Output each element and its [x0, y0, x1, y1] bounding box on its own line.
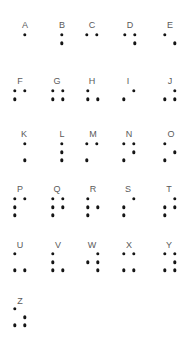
braille-dot-2-icon [13, 97, 16, 100]
braille-alphabet-chart: ABCDEFGHIJKLMNOPQRSTUVWXYZ [0, 0, 193, 339]
braille-dot-2-icon [13, 205, 16, 208]
letter-label: J [168, 77, 173, 86]
braille-dot-4-icon [133, 33, 136, 36]
braille-dot-4-icon [132, 252, 135, 255]
braille-dot-6-icon [23, 269, 26, 272]
braille-dot-3-icon [163, 214, 166, 217]
letter-label: B [59, 21, 65, 30]
braille-dot-5-icon [173, 205, 176, 208]
braille-dot-2-icon [60, 41, 63, 44]
braille-dot-2-icon [122, 97, 125, 100]
braille-dot-3-icon [13, 214, 16, 217]
letter-label: D [127, 21, 134, 30]
letter-label: C [89, 21, 96, 30]
braille-dot-5-icon [173, 150, 176, 153]
braille-dot-4-icon [132, 89, 135, 92]
braille-dot-3-icon [85, 159, 88, 162]
braille-dot-3-icon [122, 269, 125, 272]
braille-dot-4-icon [173, 89, 176, 92]
braille-dot-2-icon [163, 97, 166, 100]
braille-dot-1-icon [23, 33, 26, 36]
braille-dot-4-icon [61, 197, 64, 200]
braille-dot-5-icon [173, 97, 176, 100]
braille-dot-3-icon [51, 214, 54, 217]
braille-dot-5-icon [173, 41, 176, 44]
letter-label: E [167, 21, 173, 30]
letter-label: Q [53, 185, 60, 194]
braille-dot-5-icon [96, 97, 99, 100]
letter-label: X [126, 241, 132, 250]
braille-dot-2-icon [86, 205, 89, 208]
braille-dot-5-icon [132, 150, 135, 153]
braille-dot-3-icon [23, 159, 26, 162]
braille-dot-4-icon [96, 252, 99, 255]
letter-label: R [90, 185, 97, 194]
braille-dot-1-icon [60, 142, 63, 145]
braille-dot-1-icon [51, 89, 54, 92]
braille-dot-2-icon [60, 150, 63, 153]
braille-dot-5-icon [133, 41, 136, 44]
braille-dot-1-icon [13, 89, 16, 92]
braille-dot-1-icon [60, 33, 63, 36]
braille-dot-1-icon [85, 142, 88, 145]
letter-label: T [166, 185, 172, 194]
letter-label: Y [166, 241, 172, 250]
braille-dot-2-icon [86, 97, 89, 100]
braille-dot-5-icon [173, 260, 176, 263]
braille-dot-1-icon [86, 89, 89, 92]
braille-dot-2-icon [163, 205, 166, 208]
braille-dot-4-icon [173, 252, 176, 255]
letter-label: W [88, 241, 97, 250]
braille-dot-1-icon [51, 197, 54, 200]
braille-dot-1-icon [163, 142, 166, 145]
braille-dot-1-icon [13, 197, 16, 200]
letter-label: P [17, 185, 23, 194]
braille-dot-3-icon [163, 269, 166, 272]
braille-dot-3-icon [60, 159, 63, 162]
braille-dot-1-icon [85, 33, 88, 36]
letter-label: S [125, 185, 131, 194]
braille-dot-3-icon [122, 159, 125, 162]
braille-dot-2-icon [86, 260, 89, 263]
letter-label: I [127, 77, 130, 86]
letter-label: F [17, 77, 23, 86]
braille-dot-1-icon [13, 307, 16, 310]
braille-dot-1-icon [122, 252, 125, 255]
braille-dot-4-icon [95, 142, 98, 145]
braille-dot-1-icon [123, 33, 126, 36]
letter-label: K [21, 130, 27, 139]
letter-label: Z [17, 297, 23, 306]
braille-dot-4-icon [95, 33, 98, 36]
braille-dot-4-icon [173, 197, 176, 200]
braille-dot-1-icon [23, 142, 26, 145]
letter-label: G [53, 77, 60, 86]
braille-dot-1-icon [86, 197, 89, 200]
braille-dot-6-icon [132, 269, 135, 272]
braille-dot-3-icon [122, 214, 125, 217]
letter-label: H [89, 77, 96, 86]
letter-label: N [126, 130, 133, 139]
braille-dot-3-icon [13, 269, 16, 272]
braille-dot-6-icon [23, 324, 26, 327]
braille-dot-3-icon [51, 269, 54, 272]
braille-dot-4-icon [23, 197, 26, 200]
braille-dot-2-icon [51, 97, 54, 100]
braille-dot-1-icon [13, 252, 16, 255]
braille-dot-6-icon [173, 269, 176, 272]
letter-label: L [59, 130, 64, 139]
braille-dot-4-icon [132, 197, 135, 200]
braille-dot-6-icon [96, 269, 99, 272]
braille-dot-6-icon [61, 269, 64, 272]
letter-label: O [167, 130, 174, 139]
braille-dot-5-icon [61, 97, 64, 100]
braille-dot-5-icon [61, 205, 64, 208]
braille-dot-2-icon [51, 260, 54, 263]
letter-label: V [55, 241, 61, 250]
letter-label: M [89, 130, 97, 139]
braille-dot-5-icon [96, 205, 99, 208]
braille-dot-5-icon [96, 260, 99, 263]
braille-dot-4-icon [61, 89, 64, 92]
braille-dot-2-icon [51, 205, 54, 208]
braille-dot-1-icon [163, 252, 166, 255]
braille-dot-4-icon [23, 89, 26, 92]
